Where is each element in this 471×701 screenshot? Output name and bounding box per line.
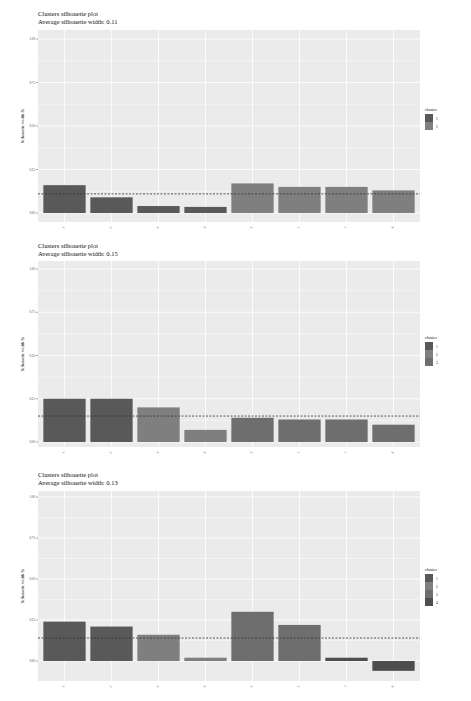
legend-label: 2 [436, 353, 438, 357]
x-tick-label: 7 [344, 684, 348, 688]
x-tick-label: 6 [297, 684, 301, 688]
x-tick-label: 3 [156, 450, 160, 454]
y-axis-label: Silhouette width Si [20, 568, 25, 603]
y-tick-label: 0.50 [29, 124, 35, 128]
bar [184, 430, 226, 442]
y-tick-label: 1.00 [29, 267, 35, 271]
x-tick-label: 4 [203, 225, 207, 229]
x-tick-label: 4 [203, 450, 207, 454]
bar [278, 420, 320, 442]
bar [137, 206, 179, 213]
bar [231, 183, 273, 213]
bar [278, 187, 320, 213]
x-tick-label: 4 [203, 684, 207, 688]
y-tick-label: 0.25 [29, 168, 35, 172]
bar [137, 407, 179, 442]
legend-swatch [425, 122, 433, 130]
legend-swatch [425, 590, 433, 598]
y-tick-label: 0.75 [29, 536, 35, 540]
y-tick-label: 0.25 [29, 618, 35, 622]
x-tick-label: 1 [62, 225, 66, 229]
legend-title: cluster [425, 335, 437, 340]
bar [43, 399, 85, 442]
x-tick-label: 2 [109, 225, 113, 229]
y-tick-label: 1.00 [29, 37, 35, 41]
legend-title: cluster [425, 567, 437, 572]
x-tick-label: 1 [62, 684, 66, 688]
chart-panel-2: Clusters silhouette plot Average silhoue… [0, 233, 471, 463]
legend-title: cluster [425, 107, 437, 112]
y-tick-label: 0.00 [29, 659, 35, 663]
y-tick-label: 0.75 [29, 310, 35, 314]
bar [231, 612, 273, 661]
bar [184, 207, 226, 213]
bar [325, 420, 367, 442]
chart-svg: 0.000.250.500.751.0012345678Silhouette w… [0, 463, 471, 701]
x-tick-label: 8 [391, 450, 395, 454]
bar [372, 661, 414, 671]
legend-label: 1 [436, 345, 438, 349]
legend-label: 1 [436, 577, 438, 581]
chart-svg: 0.000.250.500.751.0012345678Silhouette w… [0, 0, 471, 230]
legend-swatch [425, 582, 433, 590]
bar [43, 185, 85, 213]
bar [325, 658, 367, 661]
legend-label: 3 [436, 593, 438, 597]
x-tick-label: 3 [156, 225, 160, 229]
legend-label: 2 [436, 125, 438, 129]
bar [137, 635, 179, 661]
x-tick-label: 5 [250, 450, 254, 454]
legend-swatch [425, 358, 433, 366]
legend-swatch [425, 598, 433, 606]
y-axis-label: Silhouette width Si [20, 108, 25, 143]
bar [43, 622, 85, 661]
y-tick-label: 1.00 [29, 495, 35, 499]
x-tick-label: 8 [391, 225, 395, 229]
chart-svg: 0.000.250.500.751.0012345678Silhouette w… [0, 233, 471, 463]
y-axis-label: Silhouette width Si [20, 336, 25, 371]
x-tick-label: 5 [250, 684, 254, 688]
x-tick-label: 3 [156, 684, 160, 688]
bar [278, 625, 320, 661]
x-tick-label: 6 [297, 225, 301, 229]
y-tick-label: 0.50 [29, 354, 35, 358]
x-tick-label: 2 [109, 684, 113, 688]
chart-panel-1: Clusters silhouette plot Average silhoue… [0, 0, 471, 230]
y-tick-label: 0.00 [29, 440, 35, 444]
legend-label: 4 [436, 601, 438, 605]
x-tick-label: 6 [297, 450, 301, 454]
y-tick-label: 0.50 [29, 577, 35, 581]
y-tick-label: 0.00 [29, 211, 35, 215]
bar [90, 627, 132, 661]
x-tick-label: 7 [344, 225, 348, 229]
legend-swatch [425, 342, 433, 350]
chart-panel-3: Clusters silhouette plot Average silhoue… [0, 463, 471, 701]
legend-label: 3 [436, 361, 438, 365]
bar [372, 425, 414, 442]
legend-swatch [425, 574, 433, 582]
y-tick-label: 0.25 [29, 397, 35, 401]
x-tick-label: 7 [344, 450, 348, 454]
legend-swatch [425, 350, 433, 358]
legend-swatch [425, 114, 433, 122]
x-tick-label: 1 [62, 450, 66, 454]
y-tick-label: 0.75 [29, 81, 35, 85]
bar [184, 658, 226, 661]
legend-label: 1 [436, 117, 438, 121]
x-tick-label: 2 [109, 450, 113, 454]
bar [90, 197, 132, 213]
bar [231, 418, 273, 442]
bar [90, 399, 132, 442]
bar [325, 187, 367, 213]
x-tick-label: 8 [391, 684, 395, 688]
x-tick-label: 5 [250, 225, 254, 229]
legend-label: 2 [436, 585, 438, 589]
